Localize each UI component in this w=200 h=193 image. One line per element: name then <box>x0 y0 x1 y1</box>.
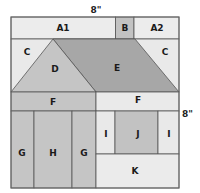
label-c-left: C <box>24 47 31 57</box>
label-f-right: F <box>135 95 141 105</box>
label-k: K <box>132 166 140 176</box>
label-j: J <box>135 129 139 139</box>
dimension-right: 8" <box>182 109 193 119</box>
label-i-right: I <box>167 129 170 139</box>
label-e: E <box>114 63 120 73</box>
label-f-left: F <box>50 97 56 107</box>
label-a1: A1 <box>56 23 69 33</box>
dimension-top: 8" <box>91 5 102 15</box>
label-h: H <box>49 148 57 158</box>
label-d: D <box>51 64 58 74</box>
label-a2: A2 <box>150 23 163 33</box>
label-g-right: G <box>80 148 87 158</box>
quilt-block-diagram: A1 B A2 C C D E F F G H G I J I K 8" 8" <box>0 0 200 193</box>
label-g-left: G <box>18 148 25 158</box>
label-b: B <box>122 23 129 33</box>
label-c-right: C <box>162 47 169 57</box>
label-i-left: I <box>104 129 107 139</box>
